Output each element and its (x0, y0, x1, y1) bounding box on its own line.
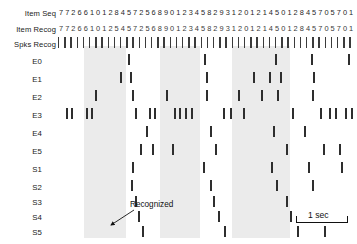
raster-row-e0 (58, 53, 354, 66)
spike-mark (152, 144, 154, 155)
spike-mark (335, 108, 337, 119)
spike-tick (232, 37, 233, 48)
spike-tick (188, 37, 189, 48)
spike-mark (286, 144, 288, 155)
item-seq-digit: 1 (348, 9, 354, 16)
scale-bar-label: 1 sec (308, 210, 329, 220)
recognized-annotation-arrow (104, 208, 138, 230)
spike-mark (351, 108, 353, 119)
spike-mark (308, 162, 310, 173)
spike-tick (151, 37, 152, 48)
spike-tick (163, 37, 164, 48)
spike-mark (311, 54, 313, 65)
raster-row-s3 (58, 195, 354, 208)
spike-mark (292, 108, 294, 119)
spike-mark (146, 126, 148, 137)
spike-mark (120, 72, 122, 83)
spike-mark (276, 180, 278, 191)
raster-row-e4 (58, 125, 354, 138)
spike-tick (325, 37, 326, 48)
spike-tick (250, 37, 251, 48)
spike-mark (130, 72, 132, 83)
scale-bar-cap-right (347, 216, 348, 223)
item-recog-digit: 1 (348, 25, 354, 32)
spike-mark (297, 226, 299, 237)
spike-mark (271, 162, 273, 173)
spike-mark (280, 72, 282, 83)
spike-mark (273, 126, 275, 137)
row-label-item-recog: Item Recog (16, 26, 56, 34)
spike-mark (286, 196, 288, 207)
row-label-e2: E2 (32, 94, 42, 102)
spike-tick (312, 37, 313, 48)
spike-mark (185, 108, 187, 119)
spike-mark (243, 108, 245, 119)
spike-tick (318, 37, 319, 48)
spike-mark (224, 226, 226, 237)
row-label-e4: E4 (32, 130, 42, 138)
spike-mark (324, 226, 326, 237)
spike-tick (145, 37, 146, 48)
spks-recog-tick-row (58, 37, 354, 48)
scale-bar-line (296, 222, 348, 223)
row-label-s1: S1 (32, 166, 42, 174)
spike-tick (256, 37, 257, 48)
spike-mark (275, 54, 277, 65)
spike-tick (83, 37, 84, 48)
spike-mark (223, 108, 225, 119)
raster-row-e3 (58, 107, 354, 120)
row-label-column: Item Seq Item Recog Spks Recog E0 E1 E2 … (0, 0, 56, 244)
spike-mark (131, 180, 133, 191)
item-seq-digits: 7726610128457256890123458293120121450128… (58, 9, 354, 16)
spike-mark (312, 90, 314, 101)
spike-tick (64, 37, 65, 48)
spike-mark (206, 90, 208, 101)
spike-mark (179, 108, 181, 119)
spike-mark (91, 108, 93, 119)
spike-mark (71, 108, 73, 119)
spike-mark (290, 211, 292, 222)
row-label-s4: S4 (32, 214, 42, 222)
spike-mark (66, 108, 68, 119)
spike-mark (154, 108, 156, 119)
spike-tick (343, 37, 344, 48)
spike-mark (210, 180, 212, 191)
spike-mark (312, 180, 314, 191)
row-label-e0: E0 (32, 58, 42, 66)
spike-mark (313, 72, 315, 83)
spike-mark (261, 90, 263, 101)
spike-mark (238, 90, 240, 101)
spike-mark (135, 108, 137, 119)
spike-tick (101, 37, 102, 48)
raster-row-e1 (58, 71, 354, 84)
row-label-spks-recog: Spks Recog (14, 41, 56, 49)
spike-tick (132, 37, 133, 48)
spike-mark (215, 144, 217, 155)
spike-mark (95, 90, 97, 101)
spike-tick (337, 37, 338, 48)
row-label-s5: S5 (32, 229, 42, 237)
row-label-e5: E5 (32, 148, 42, 156)
spike-tick (207, 37, 208, 48)
spike-tick (126, 37, 127, 48)
spike-mark (323, 144, 325, 155)
spike-mark (218, 211, 220, 222)
spike-tick (114, 37, 115, 48)
spike-tick (157, 37, 158, 48)
spike-mark (149, 108, 151, 119)
row-label-e3: E3 (32, 112, 42, 120)
spike-tick (170, 37, 171, 48)
raster-row-s5 (58, 225, 354, 238)
spike-tick (89, 37, 90, 48)
spike-mark (174, 108, 176, 119)
spike-mark (230, 108, 232, 119)
spike-mark (304, 126, 306, 137)
raster-row-s2 (58, 179, 354, 192)
spike-tick (263, 37, 264, 48)
spike-tick (349, 37, 350, 48)
spike-mark (213, 196, 215, 207)
spike-mark (253, 72, 255, 83)
spike-tick (294, 37, 295, 48)
spike-mark (132, 90, 134, 101)
raster-row-s1 (58, 161, 354, 174)
